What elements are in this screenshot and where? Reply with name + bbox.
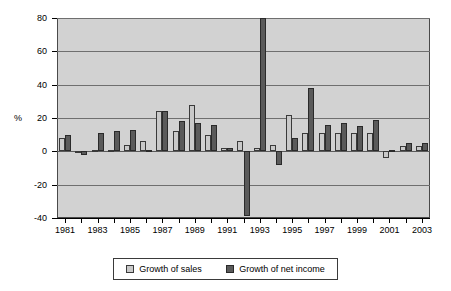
bar-net-income-2002 [406, 143, 412, 151]
x-tick-label: 1993 [250, 226, 270, 235]
legend-swatch-sales-icon [126, 265, 134, 273]
bar-net-income-1994 [276, 151, 282, 164]
legend-entry-net-income: Growth of net income [226, 265, 325, 274]
bar-net-income-2001 [389, 150, 395, 152]
legend-entry-sales: Growth of sales [126, 265, 202, 274]
x-tick-mark [162, 219, 163, 223]
bar-net-income-1988 [179, 121, 185, 151]
x-tick-mark [114, 219, 115, 223]
x-tick-label: 1991 [217, 226, 237, 235]
bar-net-income-1982 [81, 151, 87, 154]
y-tick-label: -40 [34, 214, 47, 223]
x-tick-mark [244, 219, 245, 223]
x-tick-label: 2003 [412, 226, 432, 235]
y-tick-label: 80 [37, 14, 47, 23]
x-tick-label: 1985 [120, 226, 140, 235]
y-tick-label: -20 [34, 180, 47, 189]
bar-sales-1994 [270, 145, 276, 152]
x-tick-mark [292, 219, 293, 223]
chart-figure: % 806040200-20-40 1981198319851987198919… [0, 0, 451, 291]
x-tick-mark [179, 219, 180, 223]
x-tick-label: 1981 [55, 226, 75, 235]
x-axis: 1981198319851987198919911993199519971999… [57, 218, 430, 250]
bar-net-income-1996 [308, 88, 314, 151]
x-tick-mark [211, 219, 212, 223]
x-tick-mark [422, 219, 423, 223]
bar-net-income-1987 [162, 111, 168, 151]
bar-net-income-2000 [373, 120, 379, 152]
bar-net-income-1998 [341, 123, 347, 151]
bar-sales-2001 [383, 151, 389, 158]
x-tick-label: 2001 [379, 226, 399, 235]
bar-sales-1992 [237, 141, 243, 151]
legend-swatch-net-income-icon [226, 265, 234, 273]
y-tick-label: 40 [37, 80, 47, 89]
y-tick-label: 60 [37, 47, 47, 56]
legend-label-sales: Growth of sales [139, 265, 202, 274]
bar-net-income-1985 [130, 130, 136, 152]
x-tick-label: 1983 [88, 226, 108, 235]
legend-label-net-income: Growth of net income [239, 265, 325, 274]
x-tick-mark [357, 219, 358, 223]
x-tick-mark [276, 219, 277, 223]
x-tick-mark [227, 219, 228, 223]
x-tick-mark [81, 219, 82, 223]
x-tick-mark [325, 219, 326, 223]
plot-area [57, 18, 430, 218]
x-tick-mark [260, 219, 261, 223]
x-tick-label: 1987 [152, 226, 172, 235]
x-tick-mark [146, 219, 147, 223]
x-tick-mark [195, 219, 196, 223]
bar-series-container [57, 18, 430, 218]
bar-net-income-1984 [114, 131, 120, 151]
bar-net-income-1993 [260, 18, 266, 151]
x-tick-mark [373, 219, 374, 223]
y-axis-title: % [14, 114, 22, 123]
x-tick-mark [65, 219, 66, 223]
bar-net-income-1983 [98, 133, 104, 151]
bar-net-income-1991 [227, 148, 233, 151]
bar-net-income-1997 [325, 125, 331, 152]
x-tick-label: 1999 [347, 226, 367, 235]
chart-legend: Growth of sales Growth of net income [113, 258, 338, 280]
x-tick-label: 1997 [315, 226, 335, 235]
x-tick-mark [308, 219, 309, 223]
x-tick-mark [341, 219, 342, 223]
x-tick-mark [406, 219, 407, 223]
bar-net-income-1992 [244, 151, 250, 216]
bar-net-income-1981 [65, 135, 71, 152]
bar-net-income-1990 [211, 125, 217, 152]
x-tick-mark [389, 219, 390, 223]
bar-net-income-1986 [146, 150, 152, 152]
x-tick-label: 1989 [185, 226, 205, 235]
y-axis: % 806040200-20-40 [0, 0, 57, 240]
bar-net-income-1999 [357, 126, 363, 151]
x-tick-mark [130, 219, 131, 223]
y-tick-label: 0 [42, 147, 47, 156]
bar-net-income-1995 [292, 138, 298, 151]
y-tick-label: 20 [37, 114, 47, 123]
x-tick-label: 1995 [282, 226, 302, 235]
x-tick-mark [98, 219, 99, 223]
bar-net-income-2003 [422, 143, 428, 151]
bar-net-income-1989 [195, 123, 201, 151]
